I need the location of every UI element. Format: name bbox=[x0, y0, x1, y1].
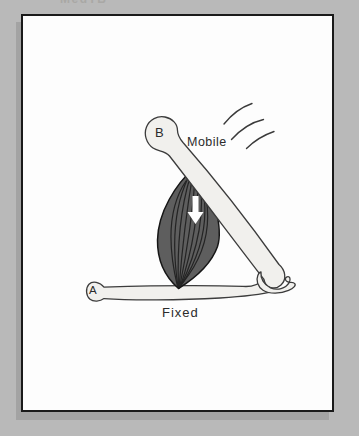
label-fixed-bone: Fixed bbox=[162, 306, 199, 319]
motion-lines-icon bbox=[224, 104, 274, 149]
label-point-b: B bbox=[155, 126, 164, 139]
label-mobile-bone: Mobile bbox=[187, 136, 227, 149]
label-point-a: A bbox=[89, 285, 97, 297]
page-background: MedTB B Mobil bbox=[0, 0, 359, 436]
anatomy-diagram-svg bbox=[0, 0, 359, 436]
